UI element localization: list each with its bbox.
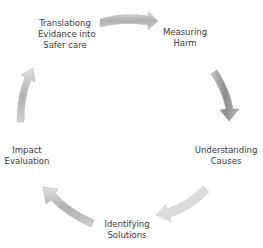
node-understanding: Understanding Causes (190, 145, 262, 167)
arrow-right-icon (211, 70, 239, 121)
node-translating-line1: Translationg (38, 18, 92, 29)
node-translating-line2: Evidance into (38, 29, 92, 40)
arrow-left-icon (17, 68, 35, 122)
arrow-bottom-left-icon (43, 187, 94, 227)
node-understanding-line2: Causes (190, 156, 262, 167)
node-understanding-line1: Understanding (190, 145, 262, 156)
node-impact-line1: Impact (2, 145, 52, 156)
arrow-top-icon (100, 11, 158, 30)
node-translating-line3: Safer care (38, 40, 92, 51)
node-identifying: Identifying Solutions (100, 219, 154, 241)
node-measuring-line2: Harm (160, 38, 210, 49)
arrow-bottom-right-icon (156, 186, 209, 222)
node-translating: Translationg Evidance into Safer care (38, 18, 92, 51)
node-measuring-line1: Measuring (160, 27, 210, 38)
node-impact-line2: Evaluation (2, 156, 52, 167)
node-identifying-line1: Identifying (100, 219, 154, 230)
node-identifying-line2: Solutions (100, 230, 154, 241)
node-measuring: Measuring Harm (160, 27, 210, 49)
node-impact: Impact Evaluation (2, 145, 52, 167)
